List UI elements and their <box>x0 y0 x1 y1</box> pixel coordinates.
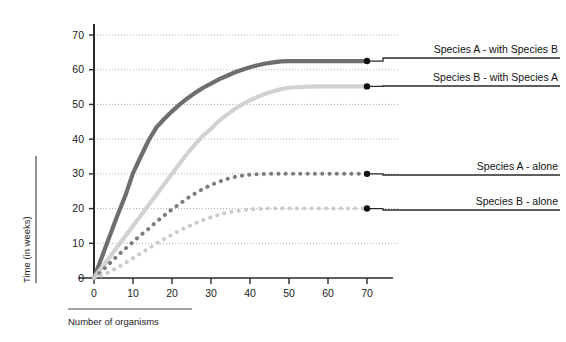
x-tick-label: 70 <box>361 287 373 299</box>
y-tick-label: 0 <box>78 272 84 284</box>
series-endpoint-marker <box>364 58 370 64</box>
legend-label: Species B - with Species A <box>433 71 558 83</box>
species-growth-chart: 010203040506070 010203040506070 Species … <box>0 0 566 342</box>
legend-label: Species A - alone <box>477 160 558 172</box>
x-tick-label: 40 <box>244 287 256 299</box>
y-tick-label: 60 <box>72 63 84 75</box>
x-tick-label: 20 <box>166 287 178 299</box>
y-axis-title: Time (in weeks) <box>21 216 32 283</box>
legend-label: Species B - alone <box>476 195 558 207</box>
x-axis-title: Number of organisms <box>68 316 159 327</box>
x-tick-label: 30 <box>205 287 217 299</box>
series-endpoint-marker <box>364 171 370 177</box>
chart-figure: 010203040506070 010203040506070 Species … <box>0 0 566 342</box>
y-tick-label: 70 <box>72 29 84 41</box>
series-endpoint-marker <box>364 205 370 211</box>
y-tick-label: 50 <box>72 98 84 110</box>
x-tick-label: 50 <box>283 287 295 299</box>
x-tick-label: 10 <box>127 287 139 299</box>
x-tick-label: 60 <box>322 287 334 299</box>
y-tick-label: 10 <box>72 237 84 249</box>
y-tick-label: 30 <box>72 167 84 179</box>
y-tick-label: 20 <box>72 202 84 214</box>
series-endpoint-marker <box>364 83 370 89</box>
legend-label: Species A - with Species B <box>434 43 558 55</box>
x-tick-label: 0 <box>91 287 97 299</box>
y-tick-label: 40 <box>72 133 84 145</box>
